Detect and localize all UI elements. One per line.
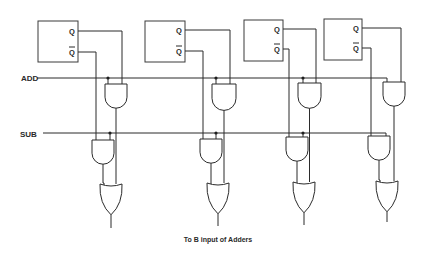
q-label: Q xyxy=(353,24,359,33)
and-gate-add xyxy=(383,82,405,106)
qbar-label: Q xyxy=(69,48,75,57)
or-gate xyxy=(100,184,122,215)
sub-label: SUB xyxy=(20,130,37,139)
and-gate-add xyxy=(105,84,127,108)
qbar-label: Q xyxy=(274,45,280,54)
and-gate-sub xyxy=(200,139,222,163)
qbar-wire xyxy=(78,52,96,140)
stage-2: QQ xyxy=(244,20,321,225)
or-gate xyxy=(207,183,229,214)
stage-1: QQ xyxy=(145,21,236,226)
or-gate xyxy=(293,182,315,213)
and-sub-output xyxy=(379,160,380,182)
caption: To B input of Adders xyxy=(184,236,253,244)
circuit-diagram: ADD SUB QQQQQQQQ To B input of Adders xyxy=(0,0,427,256)
and-gate-sub xyxy=(286,137,308,161)
and-gate-add xyxy=(298,83,321,108)
qbar-wire xyxy=(185,51,203,139)
and-gate-sub xyxy=(368,136,390,160)
junction-dot xyxy=(301,76,304,79)
and-gate-add xyxy=(212,84,236,110)
qbar-wire xyxy=(362,48,371,136)
q-wire xyxy=(185,30,230,84)
junction-dot xyxy=(214,131,217,134)
q-label: Q xyxy=(274,25,280,34)
add-label: ADD xyxy=(21,74,39,83)
stage-3: QQ xyxy=(324,19,405,222)
junction-dot xyxy=(106,76,109,79)
q-wire xyxy=(362,28,401,82)
add-line xyxy=(37,78,387,84)
junction-dot xyxy=(108,131,111,134)
or-gate xyxy=(376,181,398,212)
qbar-label: Q xyxy=(176,47,182,56)
q-label: Q xyxy=(176,26,182,35)
q-wire xyxy=(78,31,122,84)
and-gate-sub xyxy=(92,140,114,164)
and-sub-output xyxy=(103,164,104,185)
qbar-label: Q xyxy=(353,44,359,53)
stage-0: QQ xyxy=(38,21,127,228)
q-wire xyxy=(283,29,316,83)
junction-dot xyxy=(301,131,304,134)
q-label: Q xyxy=(69,27,75,36)
sub-line xyxy=(43,133,386,138)
qbar-wire xyxy=(283,49,289,137)
junction-dot xyxy=(214,76,217,79)
